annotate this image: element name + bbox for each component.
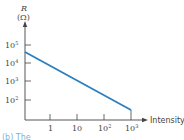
x-tick-label: 102 xyxy=(98,123,111,133)
x-tick-label: 103 xyxy=(125,123,138,133)
x-tick-label: 1 xyxy=(48,124,53,133)
x-tick-label: 10 xyxy=(72,124,82,133)
y-tick-label: 104 xyxy=(5,58,18,68)
y-tick-label: 105 xyxy=(5,40,18,50)
y-tick-label: 102 xyxy=(5,95,18,105)
y-tick-label: 103 xyxy=(5,76,18,86)
y-axis-symbol: R xyxy=(20,4,27,13)
x-axis-arrow-icon xyxy=(142,118,148,122)
data-line xyxy=(25,52,131,110)
x-axis-label: Intensity xyxy=(150,116,184,125)
y-axis-unit: (Ω) xyxy=(17,13,30,22)
chart: R (Ω) 105 104 103 102 1 10 102 103 Inten… xyxy=(0,0,184,140)
figure-caption: (b) The xyxy=(2,133,31,140)
